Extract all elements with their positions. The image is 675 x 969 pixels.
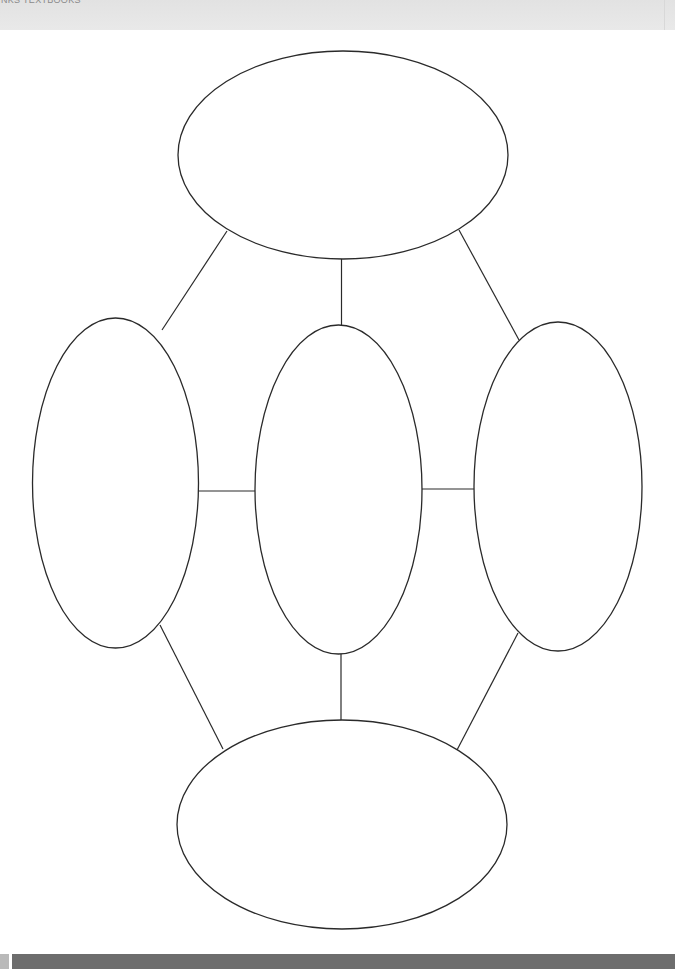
node-bottom-ellipse[interactable]	[177, 720, 507, 929]
node-left-ellipse[interactable]	[33, 318, 199, 648]
edge-top-left	[162, 231, 227, 330]
node-top-ellipse[interactable]	[178, 51, 508, 259]
edge-right-bottom	[457, 633, 518, 750]
node-center-ellipse[interactable]	[255, 325, 422, 654]
edge-top-right	[459, 230, 519, 340]
nodes	[33, 51, 643, 929]
graphic-organizer-diagram	[0, 0, 675, 969]
edge-left-bottom	[160, 625, 223, 749]
footer-tab-marker	[0, 954, 9, 969]
footer-bar	[12, 954, 675, 969]
node-right-ellipse[interactable]	[474, 322, 642, 651]
